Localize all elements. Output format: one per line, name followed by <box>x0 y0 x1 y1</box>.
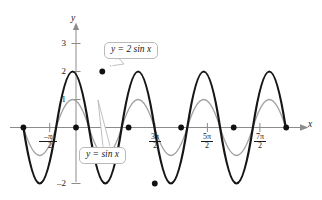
y-tick-label-2: 2 <box>54 66 66 76</box>
point-marker <box>178 125 184 131</box>
callout-label-2-sin-x: y = 2 sin x <box>104 42 158 59</box>
point-marker <box>126 125 132 131</box>
y-axis-label: y <box>71 13 75 23</box>
sine-curves-figure <box>0 0 322 200</box>
y-axis-arrow <box>73 23 79 31</box>
y-tick-label-1: 1 <box>54 94 66 104</box>
callout-label-sin-x: y = sin x <box>79 147 126 164</box>
point-marker <box>152 181 158 187</box>
y-tick-label-3: 3 <box>54 38 66 48</box>
y-tick-label-minus2: –2 <box>49 178 66 188</box>
x-tick-label-minus-pi-over-2: –π 2 <box>35 133 65 150</box>
x-axis-label: x <box>308 119 312 129</box>
callout-pointer-sinx <box>98 100 110 147</box>
point-marker <box>73 125 79 131</box>
x-tick-label-5pi-over-2: 5π 2 <box>194 133 220 150</box>
point-marker <box>21 125 27 131</box>
point-marker <box>99 69 105 75</box>
x-tick-label-7pi-over-2: 7π 2 <box>247 133 273 150</box>
point-marker <box>231 125 237 131</box>
x-tick-label-3pi-over-2: 3π 2 <box>142 133 168 150</box>
point-marker <box>283 125 289 131</box>
